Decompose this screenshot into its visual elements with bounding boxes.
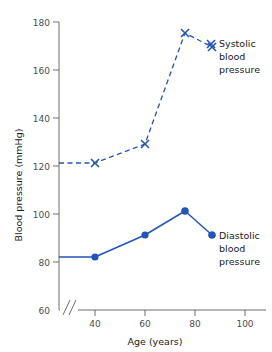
systolic-markers (91, 29, 216, 167)
x-axis-title: Age (years) (128, 336, 183, 347)
series-diastolic (59, 207, 216, 260)
diastolic-line (59, 211, 212, 257)
y-tick-label: 80 (39, 258, 51, 268)
y-tick-label: 100 (33, 210, 50, 220)
dot-marker-icon (208, 231, 215, 238)
y-tick-label: 180 (33, 18, 50, 28)
diastolic-marker (181, 207, 189, 215)
systolic-marker (91, 159, 99, 167)
y-tick-label: 60 (39, 306, 51, 316)
legend-diastolic-line1: Diastolic (219, 230, 260, 241)
legend-systolic-line1: Systolic (219, 38, 256, 49)
systolic-marker (141, 140, 149, 148)
axis-break-marker (60, 300, 78, 315)
x-tick-label: 100 (236, 319, 253, 329)
chart-plot-area: 180 160 140 120 100 80 60 40 60 80 100 A… (0, 0, 272, 352)
diastolic-marker (91, 253, 98, 260)
systolic-marker (181, 29, 189, 37)
x-tick-label: 80 (189, 319, 201, 329)
y-tick-label: 120 (33, 162, 50, 172)
diastolic-marker (141, 231, 148, 238)
legend-diastolic-line2: blood (219, 243, 245, 254)
legend-diastolic: Diastolic blood pressure (208, 230, 260, 267)
x-tick-label: 40 (89, 319, 101, 329)
x-axis-ticks (95, 310, 245, 316)
y-axis-ticks (53, 22, 59, 262)
x-axis-tick-labels: 40 60 80 100 (89, 319, 254, 329)
blood-pressure-chart: 180 160 140 120 100 80 60 40 60 80 100 A… (0, 0, 272, 352)
y-axis-title: Blood pressure (mmHg) (13, 129, 24, 242)
y-tick-label: 140 (33, 114, 50, 124)
legend-systolic-line2: blood (219, 51, 245, 62)
legend-diastolic-line3: pressure (219, 256, 260, 267)
x-tick-label: 60 (139, 319, 151, 329)
series-systolic (59, 29, 216, 167)
diastolic-markers (91, 207, 215, 260)
legend-systolic-line3: pressure (219, 64, 260, 75)
systolic-line (59, 33, 212, 163)
y-axis-tick-labels: 180 160 140 120 100 80 60 (33, 18, 50, 316)
y-tick-label: 160 (33, 66, 50, 76)
